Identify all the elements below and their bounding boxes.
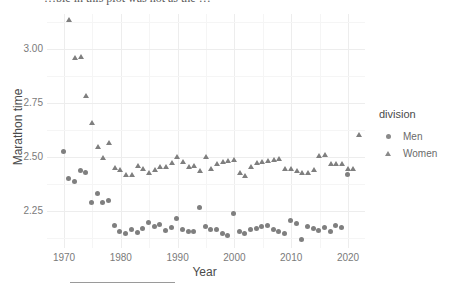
data-point-men — [237, 229, 242, 234]
data-point-men — [333, 223, 338, 228]
plot-panel — [47, 14, 365, 248]
gridline-horizontal — [47, 238, 365, 239]
data-point-men — [214, 227, 219, 232]
x-tick-label: 1990 — [166, 252, 188, 263]
data-point-men — [328, 229, 333, 234]
data-point-women — [197, 168, 203, 173]
gridline-horizontal — [47, 22, 365, 23]
x-tick-label: 2020 — [337, 252, 359, 263]
legend-title: division — [379, 108, 447, 120]
data-point-men — [231, 211, 236, 216]
data-point-men — [61, 149, 66, 154]
data-point-men — [254, 226, 259, 231]
data-point-women — [191, 163, 197, 168]
data-point-men — [203, 224, 208, 229]
data-point-men — [180, 227, 185, 232]
data-point-men — [339, 225, 344, 230]
data-point-women — [350, 166, 356, 171]
gridline-horizontal — [47, 211, 365, 212]
x-tick-label: 1980 — [110, 252, 132, 263]
data-point-women — [89, 120, 95, 125]
gridline-horizontal — [47, 130, 365, 131]
data-point-women — [78, 54, 84, 59]
data-point-men — [152, 224, 157, 229]
data-point-men — [282, 231, 287, 236]
x-axis-label: Year — [0, 265, 449, 279]
data-point-men — [135, 230, 140, 235]
y-axis-label: Marathon time — [11, 67, 25, 187]
data-point-women — [203, 154, 209, 159]
data-point-women — [174, 154, 180, 159]
data-point-men — [322, 225, 327, 230]
data-point-men — [197, 205, 202, 210]
data-point-women — [208, 166, 214, 171]
legend-label-women: Women — [403, 148, 437, 159]
gridline-horizontal — [47, 49, 365, 50]
men-marker-icon — [379, 134, 397, 139]
data-point-men — [225, 233, 230, 238]
page-rule-artifact — [70, 282, 175, 283]
data-point-women — [83, 93, 89, 98]
y-tick-label: 3.00 — [24, 43, 43, 54]
data-point-women — [322, 152, 328, 157]
data-point-men — [271, 227, 276, 232]
data-point-men — [242, 231, 247, 236]
data-point-men — [294, 221, 299, 226]
data-point-women — [356, 132, 362, 137]
data-point-men — [305, 224, 310, 229]
data-point-women — [95, 144, 101, 149]
legend-item-women[interactable]: Women — [379, 145, 447, 162]
data-point-women — [66, 17, 72, 22]
data-point-men — [95, 191, 100, 196]
data-point-women — [117, 167, 123, 172]
data-point-women — [100, 155, 106, 160]
data-point-men — [345, 172, 350, 177]
data-point-men — [66, 176, 71, 181]
data-point-men — [123, 231, 128, 236]
data-point-women — [106, 140, 112, 145]
data-point-men — [129, 227, 134, 232]
data-point-women — [311, 167, 317, 172]
x-tick-label: 1970 — [53, 252, 75, 263]
data-point-men — [220, 231, 225, 236]
data-point-men — [89, 200, 94, 205]
legend-label-men: Men — [403, 131, 422, 142]
women-marker-icon — [379, 151, 397, 156]
gridline-horizontal — [47, 184, 365, 185]
x-tick-label: 2000 — [223, 252, 245, 263]
x-tick-label: 2010 — [280, 252, 302, 263]
y-tick-label: 2.75 — [24, 97, 43, 108]
data-point-men — [78, 168, 83, 173]
legend: division Men Women — [379, 108, 447, 162]
legend-item-men[interactable]: Men — [379, 128, 447, 145]
data-point-women — [169, 160, 175, 165]
data-point-men — [146, 220, 151, 225]
y-tick-label: 2.25 — [24, 205, 43, 216]
data-point-men — [83, 170, 88, 175]
data-point-women — [129, 172, 135, 177]
data-point-women — [242, 173, 248, 178]
data-point-women — [231, 157, 237, 162]
y-tick-label: 2.50 — [24, 151, 43, 162]
data-point-men — [106, 198, 111, 203]
data-point-men — [276, 229, 281, 234]
data-point-men — [299, 237, 304, 242]
data-point-men — [169, 225, 174, 230]
data-point-men — [186, 229, 191, 234]
data-point-men — [265, 223, 270, 228]
data-point-men — [100, 200, 105, 205]
scatter-chart: 2.252.502.753.00 Marathon time Year divi… — [0, 0, 449, 290]
data-point-men — [112, 223, 117, 228]
data-point-men — [157, 222, 162, 227]
data-point-men — [163, 228, 168, 233]
data-point-men — [140, 226, 145, 231]
data-point-men — [311, 226, 316, 231]
data-point-men — [248, 227, 253, 232]
data-point-women — [276, 156, 282, 161]
data-point-men — [191, 229, 196, 234]
data-point-men — [208, 227, 213, 232]
gridline-horizontal — [47, 76, 365, 77]
gridline-horizontal — [47, 103, 365, 104]
